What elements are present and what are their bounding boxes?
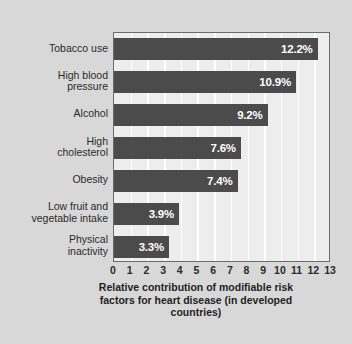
bar-row: 7.6% [114,137,330,159]
category-label: Obesity [5,174,113,186]
plot-area: 12.2%10.9%9.2%7.6%7.4%3.9%3.3% [113,32,330,262]
category-label: Low fruit and vegetable intake [5,201,113,224]
bar-value-label: 10.9% [259,76,296,88]
bar-row: 7.4% [114,170,330,192]
bar-row: 3.3% [114,236,330,258]
category-label: High cholesterol [5,136,113,159]
bar-value-label: 7.6% [210,142,240,154]
bar-row: 10.9% [114,71,330,93]
bar-value-label: 12.2% [281,43,318,55]
bar-row: 3.9% [114,203,330,225]
bar[interactable]: 7.4% [114,170,238,192]
bar[interactable]: 7.6% [114,137,241,159]
bar[interactable]: 12.2% [114,38,318,60]
bar[interactable]: 10.9% [114,71,296,93]
x-tick-label: 13 [318,264,342,276]
bar-chart: 12.2%10.9%9.2%7.6%7.4%3.9%3.3% Relative … [0,0,352,344]
bar-value-label: 3.3% [139,241,169,253]
category-label: Alcohol [5,108,113,120]
chart-card: 12.2%10.9%9.2%7.6%7.4%3.9%3.3% Relative … [0,0,352,344]
x-axis-title: Relative contribution of modifiable risk… [56,281,336,319]
category-label: High blood pressure [5,70,113,93]
category-label: Tobacco use [5,43,113,55]
bar-row: 9.2% [114,104,330,126]
bar-value-label: 3.9% [149,208,179,220]
bar-value-label: 9.2% [237,109,267,121]
bar[interactable]: 3.3% [114,236,169,258]
bar[interactable]: 3.9% [114,203,179,225]
category-label: Physical inactivity [5,234,113,257]
bar[interactable]: 9.2% [114,104,268,126]
bar-value-label: 7.4% [207,175,237,187]
bar-row: 12.2% [114,38,330,60]
